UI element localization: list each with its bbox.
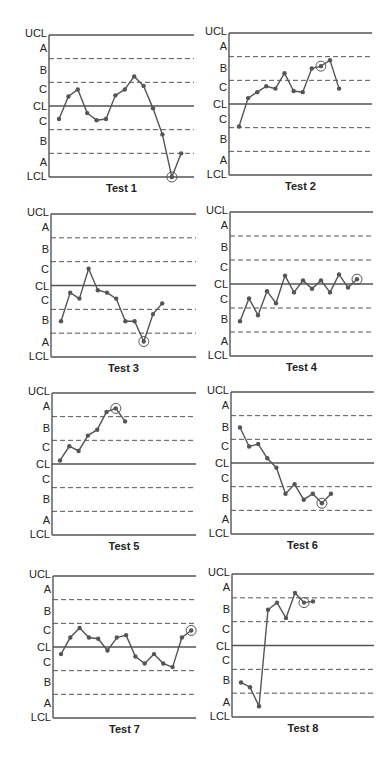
chart-title: Test 8 xyxy=(232,722,374,734)
data-point xyxy=(302,600,306,604)
data-point xyxy=(257,704,261,708)
control-chart-plot xyxy=(0,0,392,766)
data-point xyxy=(248,685,252,689)
data-point xyxy=(239,680,243,684)
data-point xyxy=(293,591,297,595)
data-point xyxy=(284,616,288,620)
data-point xyxy=(266,608,270,612)
data-point xyxy=(311,599,315,603)
data-series-line xyxy=(241,593,313,706)
data-point xyxy=(275,600,279,604)
